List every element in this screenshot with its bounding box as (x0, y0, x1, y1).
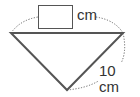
side-length-label: 10 cm (98, 63, 140, 95)
top-unit-label: cm (77, 7, 97, 23)
answer-box[interactable] (39, 6, 73, 29)
hypotenuse-dotted-arc-left (11, 17, 38, 33)
hypotenuse-dotted-arc-right (96, 17, 123, 33)
